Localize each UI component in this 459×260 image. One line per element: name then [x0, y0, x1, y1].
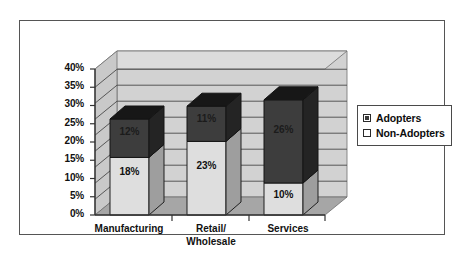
- value-label-manufacturing-adopters: 12%: [110, 126, 149, 137]
- x-axis-ticks: [172, 215, 325, 221]
- y-tick-label-30: 30%: [42, 98, 84, 109]
- legend-swatch-non-adopters-icon: [363, 129, 371, 137]
- y-tick-label-0: 0%: [42, 208, 84, 219]
- category-label-retail-line1: Retail/: [168, 223, 254, 236]
- legend-item-adopters[interactable]: Adopters: [363, 110, 445, 125]
- y-tick-label-15: 15%: [42, 153, 84, 164]
- value-label-manufacturing-nonadopters: 18%: [110, 166, 149, 177]
- legend-item-non-adopters[interactable]: Non-Adopters: [363, 125, 445, 140]
- y-tick-label-25: 25%: [42, 117, 84, 128]
- legend-label-adopters: Adopters: [376, 112, 421, 124]
- chart-legend: Adopters Non-Adopters: [357, 105, 452, 146]
- y-axis-ticks: [90, 69, 95, 215]
- value-label-services-nonadopters: 10%: [264, 189, 303, 200]
- y-tick-label-35: 35%: [42, 80, 84, 91]
- y-tick-label-10: 10%: [42, 172, 84, 183]
- category-label-retail-line2: Wholesale: [168, 236, 254, 249]
- y-tick-label-20: 20%: [42, 135, 84, 146]
- category-label-services: Services: [245, 223, 331, 236]
- value-label-retail-nonadopters: 23%: [187, 160, 226, 171]
- chart-frame: 40% 35% 30% 25% 20% 15% 10% 5% 0% 12% 18…: [19, 20, 445, 235]
- legend-label-non-adopters: Non-Adopters: [376, 127, 445, 139]
- category-label-manufacturing: Manufacturing: [86, 223, 172, 236]
- y-tick-label-40: 40%: [42, 62, 84, 73]
- legend-swatch-adopters-icon: [363, 114, 371, 122]
- y-tick-label-5: 5%: [42, 190, 84, 201]
- back-wall-top-band: [95, 51, 347, 69]
- value-label-retail-adopters: 11%: [187, 113, 226, 124]
- value-label-services-adopters: 26%: [264, 124, 303, 135]
- category-label-retail-wholesale: Retail/ Wholesale: [168, 223, 254, 248]
